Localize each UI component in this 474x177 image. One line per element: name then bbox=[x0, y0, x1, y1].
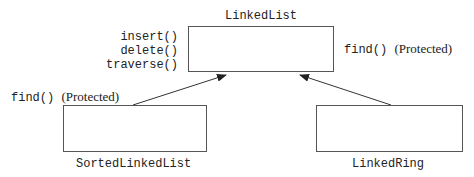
method-insert: insert() bbox=[90, 30, 178, 44]
linkedlist-title: LinkedList bbox=[225, 9, 297, 23]
base-protected-method: find() (Protected) bbox=[344, 42, 452, 57]
protected-label: (Protected) bbox=[394, 41, 452, 56]
method-traverse: traverse() bbox=[90, 58, 178, 72]
method-find: find() bbox=[11, 91, 54, 105]
left-protected-method: find() (Protected) bbox=[11, 90, 119, 105]
method-delete: delete() bbox=[90, 44, 178, 58]
linkedlist-box bbox=[188, 26, 334, 72]
method-find: find() bbox=[344, 43, 387, 57]
sortedlinkedlist-box bbox=[63, 105, 207, 152]
linkedring-box bbox=[316, 105, 463, 152]
sortedlinkedlist-title: SortedLinkedList bbox=[76, 157, 191, 171]
linkedring-title: LinkedRing bbox=[352, 157, 424, 171]
protected-label: (Protected) bbox=[61, 89, 119, 104]
